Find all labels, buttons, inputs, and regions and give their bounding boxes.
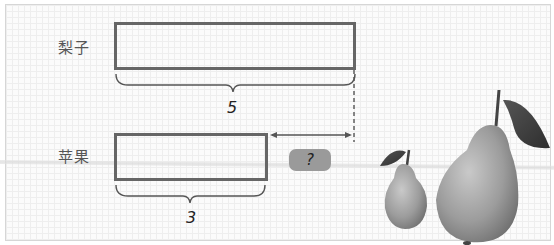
apple-brace <box>116 185 265 203</box>
arrowhead-left <box>270 132 277 138</box>
diagram-lines <box>0 0 554 245</box>
large-pear-illustration <box>436 90 550 245</box>
small-pear-illustration <box>380 150 427 229</box>
pear-brace <box>116 74 355 92</box>
arrowhead-right <box>345 132 352 138</box>
